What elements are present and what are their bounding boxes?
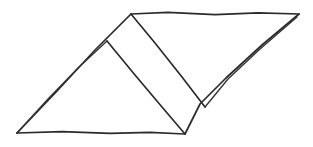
geometric-line-drawing: Geometric line drawing Hand-drawn parall… xyxy=(0,0,313,147)
background-plate xyxy=(0,0,313,147)
figure-canvas: Geometric line drawing Hand-drawn parall… xyxy=(0,0,313,147)
